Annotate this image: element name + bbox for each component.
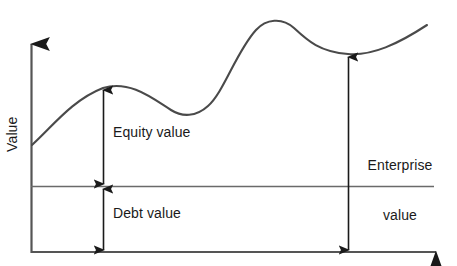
y-axis-label: Value [4, 106, 21, 162]
debt-value-label: Debt value [113, 205, 181, 222]
equity-value-label: Equity value [113, 124, 190, 141]
enterprise-value-label-line2: value [352, 207, 448, 224]
enterprise-value-diagram: Value Equity value Debt value Enterprise… [0, 0, 457, 266]
enterprise-value-label-line1: Enterprise [352, 157, 448, 174]
enterprise-value-label: Enterprise value [352, 124, 448, 256]
